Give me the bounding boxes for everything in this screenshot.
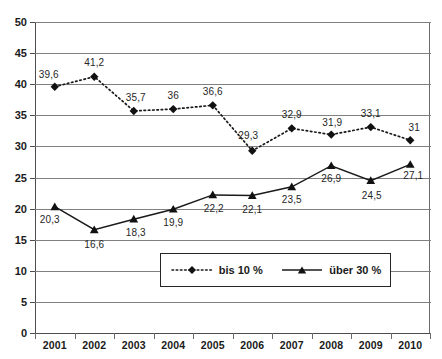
y-tick-mark <box>30 146 35 147</box>
gridline <box>35 209 431 210</box>
legend-label-bis-10: bis 10 % <box>219 264 263 276</box>
y-tick-mark <box>30 84 35 85</box>
chart-legend: bis 10 % über 30 % <box>160 253 391 287</box>
data-label: 18,3 <box>126 227 146 238</box>
x-tick-label: 2001 <box>43 339 67 351</box>
data-label: 39,6 <box>39 69 59 80</box>
data-label: 32,9 <box>282 109 302 120</box>
y-tick-label: 35 <box>0 110 27 120</box>
data-label: 24,5 <box>362 190 382 201</box>
y-tick-label: 10 <box>0 266 27 276</box>
y-tick-mark <box>30 178 35 179</box>
x-tick-mark <box>272 333 273 339</box>
data-label: 29,3 <box>238 130 258 141</box>
data-label: 26,9 <box>321 173 341 184</box>
x-tick-mark <box>391 333 392 339</box>
x-tick-label: 2004 <box>161 339 185 351</box>
x-tick-label: 2007 <box>280 339 304 351</box>
data-label: 36,6 <box>203 86 223 97</box>
y-tick-label: 45 <box>0 48 27 58</box>
data-label: 31 <box>409 122 420 133</box>
y-tick-label: 5 <box>0 297 27 307</box>
y-tick-label: 40 <box>0 79 27 89</box>
gridline <box>35 302 431 303</box>
data-label: 31,9 <box>322 117 342 128</box>
x-tick-mark <box>75 333 76 339</box>
x-tick-mark <box>430 333 431 339</box>
x-tick-mark <box>233 333 234 339</box>
x-tick-mark <box>114 333 115 339</box>
solid-triangle-key-icon <box>280 264 324 276</box>
data-label: 41,2 <box>84 57 104 68</box>
x-tick-label: 2006 <box>240 339 264 351</box>
y-tick-mark <box>30 115 35 116</box>
gridline <box>35 53 431 54</box>
x-tick-mark <box>312 333 313 339</box>
legend-label-ueber-30: über 30 % <box>329 264 381 276</box>
x-tick-mark <box>193 333 194 339</box>
data-label: 23,5 <box>282 194 302 205</box>
y-tick-label: 15 <box>0 235 27 245</box>
y-tick-label: 25 <box>0 173 27 183</box>
y-tick-mark <box>30 271 35 272</box>
gridline <box>35 146 431 147</box>
x-tick-label: 2010 <box>398 339 422 351</box>
x-tick-mark <box>154 333 155 339</box>
gridline <box>35 178 431 179</box>
data-label: 35,7 <box>126 92 146 103</box>
y-tick-mark <box>30 53 35 54</box>
y-tick-label: 50 <box>0 17 27 27</box>
legend-entry-bis-10: bis 10 % <box>170 264 263 276</box>
dotted-diamond-key-icon <box>170 264 214 276</box>
y-tick-mark <box>30 302 35 303</box>
x-tick-label: 2008 <box>319 339 343 351</box>
y-tick-mark <box>30 240 35 241</box>
data-label: 22,2 <box>204 203 224 214</box>
y-tick-label: 20 <box>0 204 27 214</box>
y-tick-mark <box>30 209 35 210</box>
gridline <box>35 84 431 85</box>
data-label: 16,6 <box>84 239 104 250</box>
gridline <box>35 22 431 23</box>
y-tick-mark <box>30 22 35 23</box>
x-tick-mark <box>35 333 36 339</box>
x-tick-mark <box>351 333 352 339</box>
x-tick-label: 2009 <box>359 339 383 351</box>
data-label: 20,3 <box>40 214 60 225</box>
data-label: 36 <box>168 90 179 101</box>
data-label: 33,1 <box>361 108 381 119</box>
y-tick-label: 0 <box>0 328 27 338</box>
data-label: 19,9 <box>163 217 183 228</box>
x-tick-label: 2002 <box>82 339 106 351</box>
x-tick-label: 2005 <box>201 339 225 351</box>
data-label: 22,1 <box>242 204 262 215</box>
data-label: 27,1 <box>403 170 423 181</box>
line-chart: 05101520253035404550 2001200220032004200… <box>0 0 442 359</box>
y-tick-label: 30 <box>0 141 27 151</box>
legend-entry-ueber-30: über 30 % <box>280 264 381 276</box>
x-tick-label: 2003 <box>122 339 146 351</box>
